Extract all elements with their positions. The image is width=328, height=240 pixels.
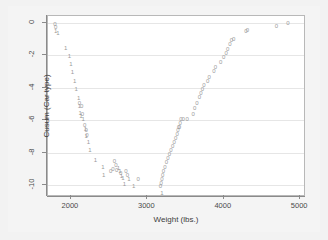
y-tick-label: -4 bbox=[27, 77, 36, 97]
x-tick-mark bbox=[223, 195, 224, 199]
data-point: 0 bbox=[115, 167, 118, 173]
data-point: 0 bbox=[182, 116, 185, 122]
y-tick-label: -8 bbox=[27, 142, 36, 162]
data-point: 0 bbox=[126, 172, 129, 178]
data-point: 1 bbox=[69, 61, 72, 67]
x-tick-mark bbox=[146, 195, 147, 199]
data-point: 1 bbox=[64, 45, 67, 51]
x-axis-label: Weight (lbs.) bbox=[47, 215, 305, 224]
data-point: 0 bbox=[119, 170, 122, 176]
y-axis-label-holder: Cusum (Car type) bbox=[14, 15, 26, 196]
data-point: 0 bbox=[232, 36, 235, 42]
x-tick-mark bbox=[70, 195, 71, 199]
x-tick-label: 2000 bbox=[62, 201, 79, 210]
data-point: 1 bbox=[94, 157, 97, 163]
data-point: 0 bbox=[111, 166, 114, 172]
data-point: 0 bbox=[185, 116, 188, 122]
data-point: 0 bbox=[85, 132, 88, 138]
data-point: 0 bbox=[195, 100, 198, 106]
y-tick-label: 0 bbox=[27, 12, 36, 32]
y-tick-mark bbox=[42, 22, 46, 23]
y-axis-label: Cusum (Car type) bbox=[42, 36, 51, 176]
gridline bbox=[48, 88, 304, 89]
data-point: 1 bbox=[88, 147, 91, 153]
chart-figure: 1111111111111111111111111111000000000000… bbox=[0, 0, 328, 240]
gridline bbox=[48, 185, 304, 186]
gridline bbox=[48, 23, 304, 24]
data-point: 0 bbox=[137, 176, 140, 182]
y-tick-mark bbox=[42, 184, 46, 185]
data-point: 0 bbox=[208, 74, 211, 80]
data-point: 0 bbox=[80, 103, 83, 109]
data-point: 1 bbox=[75, 86, 78, 92]
data-point: 1 bbox=[123, 181, 126, 187]
data-point: 0 bbox=[81, 111, 84, 117]
data-point: 1 bbox=[132, 183, 135, 189]
gridline bbox=[48, 55, 304, 56]
data-point: 1 bbox=[68, 53, 71, 59]
data-point: 0 bbox=[54, 24, 57, 30]
x-axis-line bbox=[47, 196, 305, 197]
x-tick-mark bbox=[299, 195, 300, 199]
x-tick-label: 4000 bbox=[214, 201, 231, 210]
data-point: 1 bbox=[56, 30, 59, 36]
data-point: 1 bbox=[71, 69, 74, 75]
x-tick-label: 3000 bbox=[138, 201, 155, 210]
gridline bbox=[48, 153, 304, 154]
data-point: 1 bbox=[102, 172, 105, 178]
data-point: 0 bbox=[286, 20, 289, 26]
data-point: 1 bbox=[87, 139, 90, 145]
y-tick-label: -6 bbox=[27, 109, 36, 129]
data-point: 0 bbox=[192, 111, 195, 117]
plot-area: 1111111111111111111111111111000000000000… bbox=[47, 15, 305, 196]
data-point: 0 bbox=[246, 27, 249, 33]
data-point: 1 bbox=[160, 190, 163, 196]
y-tick-label: -2 bbox=[27, 44, 36, 64]
data-point: 0 bbox=[275, 23, 278, 29]
data-point: 1 bbox=[101, 164, 104, 170]
gridline bbox=[48, 120, 304, 121]
data-point: 1 bbox=[73, 78, 76, 84]
y-tick-label: -10 bbox=[27, 174, 36, 194]
data-point: 0 bbox=[214, 64, 217, 70]
x-tick-label: 5000 bbox=[291, 201, 308, 210]
